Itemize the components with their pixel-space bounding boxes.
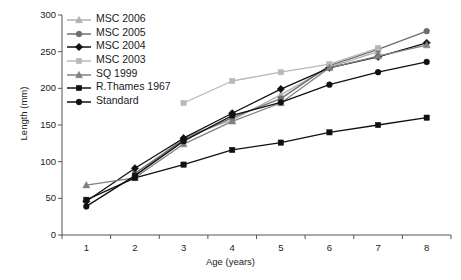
legend-marker-diamond-icon	[66, 39, 92, 51]
x-tick-label: 2	[123, 242, 147, 253]
legend-label: MSC 2006	[92, 12, 146, 24]
x-axis-ticks	[62, 235, 451, 239]
legend-marker-square-icon	[66, 53, 92, 65]
legend-marker-triangle-icon	[66, 67, 92, 79]
chart-container: Length (mm) Age (years) 0501001502002503…	[0, 0, 461, 280]
x-tick-label: 5	[269, 242, 293, 253]
legend-label: R.Thames 1967	[92, 80, 171, 92]
legend-marker-circle-icon	[66, 26, 92, 38]
y-tick-label: 200	[28, 82, 56, 93]
y-tick-label: 150	[28, 119, 56, 130]
y-tick-label: 50	[28, 192, 56, 203]
y-axis-ticks	[58, 15, 62, 235]
legend-marker-square-icon	[66, 80, 92, 92]
legend-label: SQ 1999	[92, 67, 137, 79]
legend-item[interactable]: R.Thames 1967	[66, 79, 171, 93]
legend-item[interactable]: MSC 2006	[66, 11, 171, 25]
y-tick-label: 250	[28, 46, 56, 57]
legend-label: MSC 2005	[92, 26, 146, 38]
y-tick-label: 100	[28, 156, 56, 167]
y-axis-title: Length (mm)	[18, 69, 29, 159]
legend-marker-triangle-icon	[66, 12, 92, 24]
legend-label: MSC 2004	[92, 39, 146, 51]
legend-label: MSC 2003	[92, 53, 146, 65]
series-r-thames-1967	[84, 115, 430, 202]
y-tick-label: 300	[28, 9, 56, 20]
x-tick-label: 3	[172, 242, 196, 253]
x-tick-label: 4	[220, 242, 244, 253]
x-tick-label: 1	[74, 242, 98, 253]
x-tick-label: 7	[366, 242, 390, 253]
legend-item[interactable]: SQ 1999	[66, 66, 171, 80]
legend-item[interactable]: MSC 2004	[66, 38, 171, 52]
legend-marker-circle-icon	[66, 94, 92, 106]
y-tick-label: 0	[28, 229, 56, 240]
legend-item[interactable]: Standard	[66, 93, 171, 107]
legend-label: Standard	[92, 94, 139, 106]
chart-legend: MSC 2006MSC 2005MSC 2004MSC 2003SQ 1999R…	[66, 11, 171, 107]
x-tick-label: 8	[415, 242, 439, 253]
x-tick-label: 6	[317, 242, 341, 253]
legend-item[interactable]: MSC 2005	[66, 25, 171, 39]
x-axis-title: Age (years)	[0, 256, 461, 267]
legend-item[interactable]: MSC 2003	[66, 52, 171, 66]
